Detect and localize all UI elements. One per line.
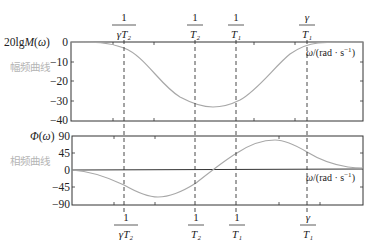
phase-zero-line	[72, 169, 363, 170]
phase-ylabel: Φ(ω)	[30, 130, 55, 143]
svg-text:1: 1	[193, 211, 199, 223]
marker-label-1-over-T1: 1 T₁	[228, 11, 244, 40]
marker-dashed-lines	[124, 40, 307, 212]
svg-text:−90: −90	[52, 198, 70, 210]
marker-label-1-over-gamma-T2: 1 γT₂	[112, 11, 136, 40]
marker-label-gamma-over-T1: γ T₁	[299, 11, 315, 40]
svg-text:γT₂: γT₂	[117, 28, 131, 40]
svg-text:0: 0	[64, 164, 70, 176]
svg-text:−30: −30	[50, 95, 68, 107]
phase-side-label: 相频曲线	[10, 155, 51, 167]
svg-text:γ: γ	[305, 11, 310, 23]
svg-text:0: 0	[62, 36, 68, 48]
phase-curve	[72, 140, 363, 197]
top-marker-labels: 1 γT₂ 1 T₂ 1 T₁ γ T₁	[112, 11, 315, 40]
svg-text:1: 1	[123, 211, 129, 223]
magnitude-x-unit: ω/(rad · s−1)	[306, 46, 355, 59]
svg-text:90: 90	[59, 130, 71, 142]
phase-plot-frame	[72, 136, 363, 205]
svg-text:1: 1	[234, 211, 240, 223]
svg-text:−20: −20	[50, 75, 68, 87]
svg-text:45: 45	[59, 147, 71, 159]
svg-text:1: 1	[233, 11, 239, 23]
svg-text:γT₂: γT₂	[119, 228, 133, 240]
phase-x-unit: ω/(rad · s−1)	[306, 171, 355, 184]
svg-text:T₁: T₁	[232, 228, 242, 240]
bode-diagram: 1 γT₂ 1 T₂ 1 T₁ γ T₁ 20lgM(ω) 幅频曲线 0 −10…	[0, 0, 370, 244]
bottom-marker-labels: 1 γT₂ 1 T₂ 1 T₁ γ T₁	[114, 211, 316, 240]
svg-text:−10: −10	[50, 56, 68, 68]
marker-label-1-over-T2: 1 T₂	[187, 11, 203, 40]
svg-text:1: 1	[192, 11, 198, 23]
magnitude-panel: 20lgM(ω) 幅频曲线 0 −10 −20 −30 −40	[4, 36, 363, 126]
svg-text:−45: −45	[52, 181, 70, 193]
svg-text:1: 1	[121, 11, 127, 23]
phase-panel: Φ(ω) 相频曲线 90 45 0 −45 −90 ω/(rad · s−1)	[10, 130, 363, 210]
svg-text:T₂: T₂	[191, 228, 201, 240]
svg-text:γ: γ	[306, 211, 311, 223]
svg-text:T₁: T₁	[303, 228, 313, 240]
magnitude-side-label: 幅频曲线	[10, 61, 51, 73]
magnitude-ylabel: 20lgM(ω)	[4, 36, 50, 49]
svg-text:T₁: T₁	[302, 28, 312, 40]
svg-text:T₂: T₂	[190, 28, 200, 40]
svg-text:−40: −40	[50, 114, 68, 126]
svg-text:T₁: T₁	[231, 28, 241, 40]
